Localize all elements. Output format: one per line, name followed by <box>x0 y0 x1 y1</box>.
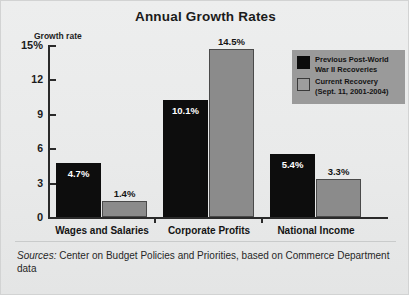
y-tick-9: 9 <box>48 114 56 116</box>
y-tick-label-9: 9 <box>37 108 43 120</box>
y-tick-label-3: 3 <box>37 177 43 189</box>
bar-corporate-previous[interactable]: 10.1% <box>163 100 208 217</box>
y-tick-label-15: 15% <box>21 39 43 51</box>
y-tick-12: 12 <box>48 79 56 81</box>
bar-label-corporate-current: 14.5% <box>218 36 245 47</box>
y-tick-label-6: 6 <box>37 142 43 154</box>
legend-label-current-line1: Current Recovery <box>315 77 378 86</box>
bar-corporate-current[interactable]: 14.5% <box>209 49 254 217</box>
legend-label-current-line2: (Sept. 11, 2001-2004) <box>315 87 388 96</box>
bar-label-wages-previous: 4.7% <box>68 168 90 179</box>
sources-note: Sources: Center on Budget Policies and P… <box>17 249 397 275</box>
bar-label-national-current: 3.3% <box>328 166 350 177</box>
bar-label-corporate-previous: 10.1% <box>172 105 199 116</box>
bar-national-previous[interactable]: 5.4% <box>270 154 315 217</box>
y-tick-3: 3 <box>48 183 56 185</box>
chart-title: Annual Growth Rates <box>1 9 409 24</box>
chart-legend: Previous Post-WorldWar II Recoveries Cur… <box>292 50 405 104</box>
bar-wages-current[interactable]: 1.4% <box>102 201 147 217</box>
legend-item-current-recovery[interactable]: Current Recovery(Sept. 11, 2001-2004) <box>297 77 388 97</box>
footer-divider <box>15 241 396 242</box>
x-tick-sep-1 <box>154 219 156 223</box>
y-tick-label-0: 0 <box>37 211 43 223</box>
x-axis-line <box>48 217 388 219</box>
y-tick-0: 0 <box>48 217 56 219</box>
category-label-national-income: National Income <box>277 225 354 236</box>
legend-label-previous-recoveries: Previous Post-WorldWar II Recoveries <box>315 55 389 75</box>
category-label-corporate-profits: Corporate Profits <box>168 225 250 236</box>
legend-label-previous-line2: War II Recoveries <box>315 65 377 74</box>
category-label-wages-and-salaries: Wages and Salaries <box>55 225 149 236</box>
legend-label-current-recovery: Current Recovery(Sept. 11, 2001-2004) <box>315 77 388 97</box>
chart-figure: Annual Growth Rates Growth rate 15% 12 9… <box>0 0 409 295</box>
y-axis-line <box>48 45 50 219</box>
y-tick-label-12: 12 <box>31 73 43 85</box>
y-tick-6: 6 <box>48 148 56 150</box>
bar-label-national-previous: 5.4% <box>282 159 304 170</box>
sources-label: Sources: <box>17 250 56 261</box>
bar-wages-previous[interactable]: 4.7% <box>56 163 101 218</box>
current-recovery-swatch-icon <box>297 78 310 91</box>
x-tick-sep-2 <box>261 219 263 223</box>
legend-label-previous-line1: Previous Post-World <box>315 55 389 64</box>
bar-national-current[interactable]: 3.3% <box>316 179 361 217</box>
bar-label-wages-current: 1.4% <box>114 188 136 199</box>
legend-item-previous-recoveries[interactable]: Previous Post-WorldWar II Recoveries <box>297 55 389 75</box>
sources-text: Center on Budget Policies and Priorities… <box>17 250 389 274</box>
previous-recoveries-swatch-icon <box>297 56 310 69</box>
y-tick-15: 15% <box>48 45 56 47</box>
